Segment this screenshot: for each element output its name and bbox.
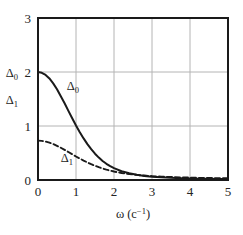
x-tick-label: 5	[225, 184, 232, 199]
y-tick-label: 2	[25, 65, 32, 80]
x-axis-title: ω(c−1)	[116, 206, 150, 221]
figure-container: 012345 0123 Δ0Δ1 Δ0Δ1 ω(c−1)	[0, 0, 243, 235]
chart-background	[0, 0, 243, 235]
x-tick-label: 4	[187, 184, 194, 199]
y-tick-label: 3	[25, 11, 32, 26]
x-tick-label: 0	[35, 184, 42, 199]
x-tick-label: 1	[73, 184, 80, 199]
x-tick-label: 2	[111, 184, 118, 199]
y-tick-label: 1	[25, 119, 32, 134]
x-tick-label: 3	[149, 184, 156, 199]
chart-plot: 012345 0123 Δ0Δ1 Δ0Δ1 ω(c−1)	[0, 0, 243, 235]
x-axis-title-group: ω(c−1)	[116, 206, 150, 221]
y-tick-label: 0	[25, 173, 32, 188]
x-axis-title-omega: ω	[116, 207, 124, 221]
